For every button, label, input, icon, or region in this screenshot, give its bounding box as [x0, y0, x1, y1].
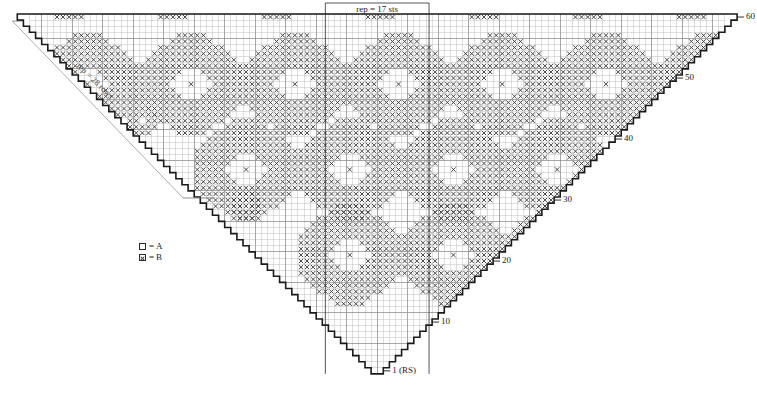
- chart-canvas: rep = 17 sts rep = 28 rows = A = B 60504…: [0, 0, 757, 396]
- legend-item-a: = A: [139, 241, 163, 252]
- row-label-60: 60: [746, 11, 755, 21]
- legend-label-b: B: [156, 252, 162, 263]
- repeat-sts-label: rep = 17 sts: [356, 4, 398, 14]
- legend-equals: =: [149, 252, 154, 263]
- row-label-40: 40: [624, 133, 633, 143]
- heavy-grid-lines: [30, 14, 725, 374]
- row-label-30: 30: [563, 194, 572, 204]
- row-label-1RS: 1 (RS): [392, 365, 416, 375]
- chart-grid-svg: [0, 0, 757, 396]
- legend-label-a: A: [156, 241, 163, 252]
- row-label-50: 50: [685, 72, 694, 82]
- crossed-square-icon: [139, 254, 146, 261]
- row-label-20: 20: [502, 255, 511, 265]
- empty-square-icon: [139, 243, 146, 250]
- legend-item-b: = B: [139, 252, 163, 263]
- chart-legend: = A = B: [139, 241, 163, 263]
- legend-equals: =: [149, 241, 154, 252]
- row-label-10: 10: [441, 316, 450, 326]
